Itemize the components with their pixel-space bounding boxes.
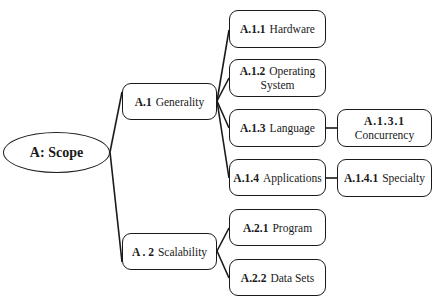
node-label: Specialty — [382, 171, 425, 185]
node-label: Applications — [263, 171, 322, 185]
node-code: A . 2 — [132, 245, 154, 259]
node-generality: A.1 Generality — [122, 83, 217, 120]
node-label: Data Sets — [270, 271, 314, 285]
node-label-line2: System — [261, 78, 295, 92]
node-code: A.1 — [135, 95, 152, 109]
node-label: Operating — [269, 65, 315, 77]
node-scalability: A . 2 Scalability — [122, 233, 217, 270]
node-specialty: A.1.4.1 Specialty — [337, 159, 432, 197]
node-operating-system: A.1.2Operating System — [229, 59, 326, 97]
node-hardware: A.1.1 Hardware — [229, 10, 326, 48]
node-applications: A.1.4 Applications — [229, 159, 326, 196]
node-code: A.2.2 — [241, 271, 267, 285]
node-label: Concurrency — [355, 128, 414, 142]
node-label: Language — [270, 121, 315, 135]
root-node-scope: A: Scope — [3, 132, 110, 173]
root-label: A: Scope — [30, 146, 83, 160]
node-label: Hardware — [270, 22, 315, 36]
node-code: A.2.1 — [243, 221, 269, 235]
node-code: A.1.1 — [240, 22, 266, 36]
node-code: A.1.2 — [240, 65, 266, 77]
node-program: A.2.1 Program — [229, 209, 326, 246]
node-label: Generality — [156, 95, 205, 109]
node-label: Program — [272, 221, 312, 235]
node-concurrency: A.1.3.1 Concurrency — [337, 109, 432, 147]
node-label: Scalability — [158, 245, 207, 259]
node-language: A.1.3 Language — [229, 109, 326, 147]
node-code: A.1.3.1 — [364, 114, 405, 128]
node-code: A.1.4.1 — [344, 171, 378, 185]
node-data-sets: A.2.2 Data Sets — [229, 259, 326, 296]
node-code: A.1.3 — [240, 121, 266, 135]
node-code: A.1.4 — [233, 171, 259, 185]
